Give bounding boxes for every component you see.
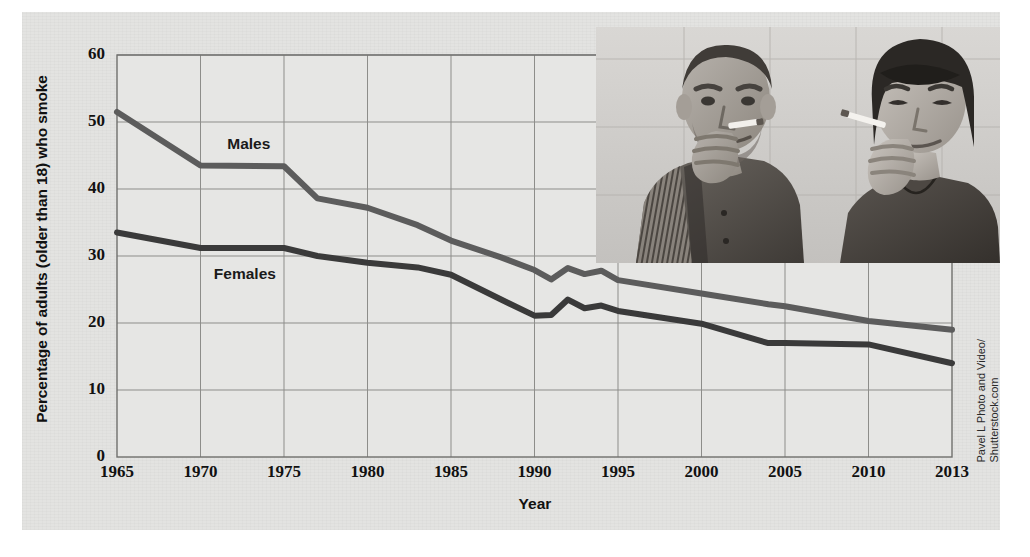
photo-illustration bbox=[596, 27, 1000, 263]
photo-credit-line-2: Shutterstock.com bbox=[987, 283, 1000, 463]
series-label-males: Males bbox=[227, 135, 270, 153]
x-axis-tick-label: 1980 bbox=[333, 462, 403, 482]
y-axis-tick-label: 20 bbox=[59, 312, 105, 332]
x-axis-tick-label: 1965 bbox=[82, 462, 152, 482]
y-axis-tick-label: 30 bbox=[59, 245, 105, 265]
x-axis-tick-label: 1975 bbox=[249, 462, 319, 482]
x-axis-title: Year bbox=[117, 495, 953, 513]
x-axis-tick-label: 2010 bbox=[834, 462, 904, 482]
smoking-photo bbox=[596, 27, 1000, 263]
y-axis-tick-label: 50 bbox=[59, 111, 105, 131]
y-axis-title: Percentage of adults (older than 18) who… bbox=[33, 39, 51, 459]
x-axis-tick-label: 2000 bbox=[667, 462, 737, 482]
x-axis-tick-label: 2005 bbox=[750, 462, 820, 482]
x-axis-tick-label: 2013 bbox=[917, 462, 987, 482]
figure-root: Percentage of adults (older than 18) who… bbox=[0, 0, 1030, 557]
y-axis-tick-label: 10 bbox=[59, 379, 105, 399]
photo-credit: Pavel L Photo and Video/ Shutterstock.co… bbox=[975, 283, 1000, 463]
x-axis-tick-label: 1970 bbox=[166, 462, 236, 482]
series-label-females: Females bbox=[214, 265, 276, 283]
y-axis-tick-label: 60 bbox=[59, 44, 105, 64]
x-axis-tick-label: 1995 bbox=[583, 462, 653, 482]
photo-credit-line-1: Pavel L Photo and Video/ bbox=[975, 283, 988, 463]
y-axis-tick-label: 40 bbox=[59, 178, 105, 198]
x-axis-tick-label: 1990 bbox=[500, 462, 570, 482]
x-axis-tick-label: 1985 bbox=[416, 462, 486, 482]
